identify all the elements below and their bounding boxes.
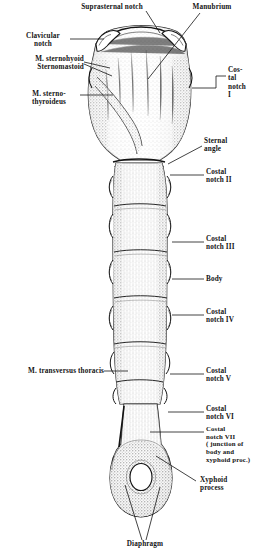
manubrium-shape bbox=[86, 24, 196, 164]
sternum-body-shape bbox=[108, 160, 174, 410]
label-sternal-angle: Sternal angle bbox=[204, 137, 262, 154]
label-costal-notch-i: Cos- tal notch I bbox=[228, 66, 270, 100]
label-diaphragm: Diaphragm bbox=[110, 540, 180, 548]
label-costal-notch-vi: Costal notch VI bbox=[206, 405, 268, 422]
label-costal-notch-vii: Costal notch VII ( junction of body and … bbox=[206, 425, 272, 464]
label-clavicular-notch: Clavicular notch bbox=[16, 32, 70, 49]
label-costal-notch-ii: Costal notch II bbox=[206, 168, 268, 185]
label-suprasternal-notch: Suprasternal notch bbox=[68, 3, 156, 11]
sternum-figure: Suprasternal notch Manubrium Clavicular … bbox=[0, 0, 272, 558]
label-body: Body bbox=[206, 275, 250, 283]
label-costal-notch-v: Costal notch V bbox=[206, 367, 268, 384]
label-xyphoid-process: Xyphoid process bbox=[200, 476, 260, 493]
label-costal-notch-iii: Costal notch III bbox=[206, 235, 268, 252]
label-m-sternothyroideus: M. sterno- thyroideus bbox=[16, 90, 82, 107]
label-manubrium: Manubrium bbox=[176, 3, 248, 11]
label-costal-notch-iv: Costal notch IV bbox=[206, 308, 268, 325]
xyphoid-process-shape bbox=[106, 400, 178, 522]
xyphoid-foramen bbox=[130, 464, 152, 491]
label-m-transversus-thoracis: M. transversus thoracis bbox=[2, 367, 104, 375]
label-m-sternohyoid-sternomastoid: M. sternohyoid Sternomastoid bbox=[0, 55, 84, 72]
